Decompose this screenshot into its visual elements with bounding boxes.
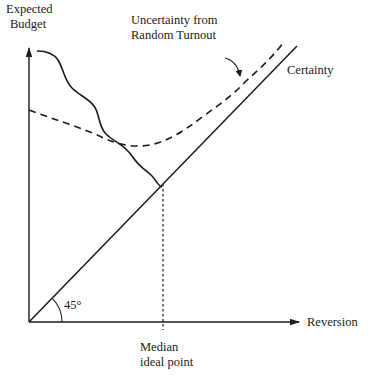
certainty-label: Certainty	[287, 63, 334, 77]
pointer-arrow-icon	[225, 58, 240, 76]
expected-budget-diagram: Expected Budget Uncertainty from Random …	[0, 0, 378, 380]
y-axis-label-line2: Budget	[10, 17, 46, 31]
uncertainty-dashed-tail	[245, 40, 285, 82]
uncertainty-label-line2: Random Turnout	[131, 28, 216, 42]
uncertainty-dashed-curve	[29, 42, 284, 146]
x-axis-label: Reversion	[307, 315, 358, 329]
uncertainty-label-line1: Uncertainty from	[131, 13, 217, 27]
median-label-line1: Median	[140, 340, 178, 354]
angle-label: 45°	[64, 298, 82, 312]
y-axis-label-line1: Expected	[6, 2, 53, 16]
angle-arc-icon	[53, 299, 63, 322]
median-label-line2: ideal point	[140, 355, 193, 369]
